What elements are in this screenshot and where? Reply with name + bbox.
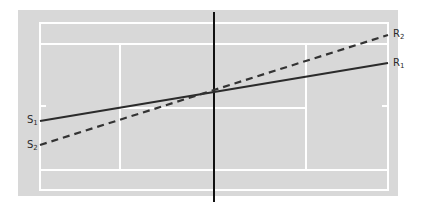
label-r2-sub: 2 bbox=[400, 33, 404, 41]
label-r1: R1 bbox=[393, 58, 404, 71]
court-surface bbox=[18, 10, 398, 196]
label-s2: S2 bbox=[27, 140, 38, 153]
label-r1-sub: 1 bbox=[400, 62, 404, 70]
court-diagram bbox=[0, 0, 428, 216]
label-r2: R2 bbox=[393, 29, 404, 42]
label-s1: S1 bbox=[27, 115, 38, 128]
label-s2-sub: 2 bbox=[33, 144, 37, 152]
label-r1-text: R bbox=[393, 57, 400, 68]
label-r2-text: R bbox=[393, 28, 400, 39]
label-s1-sub: 1 bbox=[33, 119, 37, 127]
